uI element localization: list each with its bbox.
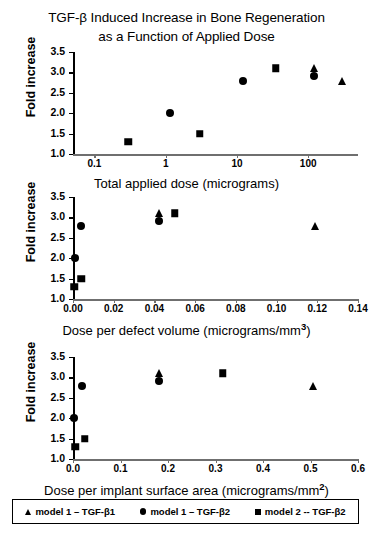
chart-panel-1: Fold increase1.01.52.02.53.03.50.1110100…	[0, 48, 373, 193]
y-tick-label: 1.5	[50, 272, 65, 284]
y-tick-label: 3.5	[50, 45, 65, 57]
figure-title-line-2: as a Function of Applied Dose	[0, 27, 373, 46]
y-axis-label: Fold increase	[24, 327, 38, 437]
legend-item: model 1 – TGF-β1	[25, 506, 115, 517]
data-point-circle	[71, 254, 79, 262]
x-tick-label: 0.02	[104, 303, 123, 314]
y-tick: 3.5	[69, 52, 73, 53]
data-point-square	[171, 210, 179, 218]
data-point-square	[125, 138, 133, 146]
data-point-triangle	[155, 209, 163, 217]
x-tick-label: 100	[300, 158, 317, 169]
legend-label: model 1 – TGF-β1	[35, 506, 115, 517]
y-tick: 1.5	[69, 439, 73, 440]
legend-item: model 1 – TGF-β2	[140, 506, 230, 517]
x-axis-line	[73, 299, 358, 301]
legend: model 1 – TGF-β1model 1 – TGF-β2model 2 …	[12, 499, 359, 524]
y-tick: 3.5	[69, 357, 73, 358]
data-point-square	[81, 435, 89, 443]
y-tick-label: 1.0	[50, 452, 65, 464]
y-tick-label: 3.0	[50, 210, 65, 222]
data-point-square	[219, 370, 227, 378]
y-axis-label: Fold increase	[24, 22, 38, 132]
data-point-triangle	[155, 369, 163, 377]
figure-title-line-1: TGF-β Induced Increase in Bone Regenerat…	[0, 8, 373, 27]
x-axis-label-tail: )	[325, 483, 329, 498]
data-point-square	[72, 443, 80, 451]
y-tick-label: 2.5	[50, 231, 65, 243]
legend-marker-triangle-icon	[25, 509, 31, 515]
y-tick-label: 2.0	[50, 411, 65, 423]
x-tick-label: 0.1	[87, 158, 101, 169]
x-tick-label: 10	[231, 158, 242, 169]
data-point-circle	[310, 72, 318, 80]
plot-area: 1.01.52.02.53.03.50.000.020.040.060.080.…	[73, 197, 358, 299]
data-point-circle	[78, 382, 86, 390]
y-tick-label: 1.5	[50, 432, 65, 444]
y-tick-label: 3.0	[50, 65, 65, 77]
x-tick-label: 0.6	[351, 463, 365, 474]
data-point-circle	[166, 109, 174, 117]
y-tick: 2.5	[69, 398, 73, 399]
y-tick: 1.5	[69, 134, 73, 135]
y-tick: 3.0	[69, 217, 73, 218]
data-point-triangle	[338, 77, 346, 85]
legend-marker-square-icon	[255, 509, 261, 515]
y-axis-line	[73, 52, 75, 154]
y-tick-label: 2.0	[50, 106, 65, 118]
chart-panel-2: Fold increase1.01.52.02.53.03.50.000.020…	[0, 193, 373, 353]
data-point-square	[272, 65, 280, 73]
data-point-circle	[155, 217, 163, 225]
y-tick-label: 2.0	[50, 251, 65, 263]
data-point-circle	[77, 222, 85, 230]
data-point-triangle	[310, 64, 318, 72]
data-point-square	[77, 275, 85, 283]
legend-label: model 1 – TGF-β2	[150, 506, 230, 517]
legend-marker-circle-icon	[140, 508, 147, 515]
figure-root: TGF-β Induced Increase in Bone Regenerat…	[0, 0, 373, 536]
x-tick-label: 0.1	[114, 463, 128, 474]
x-tick-label: 0.14	[348, 303, 367, 314]
x-tick-label: 1	[163, 158, 169, 169]
y-tick: 2.0	[69, 113, 73, 114]
y-tick: 3.5	[69, 197, 73, 198]
x-tick-label: 0.4	[256, 463, 270, 474]
y-tick-label: 1.0	[50, 147, 65, 159]
legend-item: model 2 -- TGF-β2	[255, 506, 346, 517]
x-axis-line	[73, 154, 358, 156]
y-tick-label: 1.5	[50, 127, 65, 139]
y-tick: 1.0	[69, 154, 73, 155]
x-tick-label: 0.12	[308, 303, 327, 314]
y-tick: 2.5	[69, 238, 73, 239]
legend-label: model 2 -- TGF-β2	[265, 506, 346, 517]
x-axis-label-text: Dose per implant surface area (microgram…	[44, 483, 319, 498]
y-tick-label: 3.0	[50, 370, 65, 382]
plot-area: 1.01.52.02.53.03.50.1110100	[73, 52, 358, 154]
x-tick-label: 0.04	[145, 303, 164, 314]
chart-panel-3: Fold increase1.01.52.02.53.03.50.00.10.2…	[0, 353, 373, 488]
y-tick-label: 3.5	[50, 190, 65, 202]
data-point-triangle	[309, 382, 317, 390]
x-tick-label: 0.0	[66, 463, 80, 474]
data-point-circle	[70, 414, 78, 422]
figure-title: TGF-β Induced Increase in Bone Regenerat…	[0, 8, 373, 46]
y-tick-label: 3.5	[50, 350, 65, 362]
x-tick-label: 0.5	[304, 463, 318, 474]
data-point-triangle	[311, 222, 319, 230]
x-tick-label: 0.2	[161, 463, 175, 474]
x-axis-label-text: Dose per defect volume (micrograms/mm	[62, 323, 300, 338]
data-point-circle	[239, 77, 247, 85]
x-tick-label: 0.00	[63, 303, 82, 314]
x-axis-label: Dose per implant surface area (microgram…	[0, 481, 373, 498]
x-tick-label: 0.10	[267, 303, 286, 314]
y-tick: 1.5	[69, 279, 73, 280]
data-point-square	[70, 283, 78, 291]
x-axis-label-tail: )	[306, 323, 310, 338]
x-axis-label: Total applied dose (micrograms)	[0, 176, 373, 191]
y-tick-label: 2.5	[50, 86, 65, 98]
x-axis-label: Dose per defect volume (micrograms/mm3)	[0, 321, 373, 338]
x-tick-label: 0.06	[185, 303, 204, 314]
y-axis-label: Fold increase	[24, 167, 38, 277]
x-tick-label: 0.08	[226, 303, 245, 314]
y-tick: 3.0	[69, 377, 73, 378]
